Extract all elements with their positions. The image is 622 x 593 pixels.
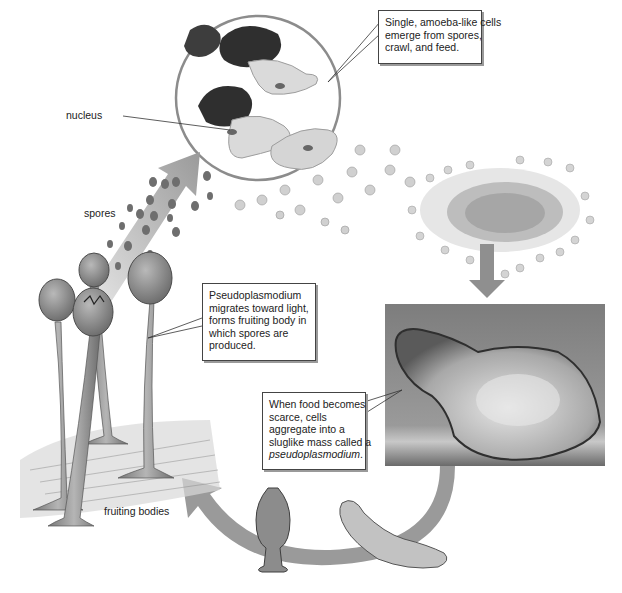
amoeba-callout-pointer bbox=[328, 22, 380, 82]
amoeba-emergence-callout: Single, amoeba-like cells emerge from sp… bbox=[378, 10, 482, 64]
callout-line: produced. bbox=[209, 339, 309, 352]
callout-line: crawl, and feed. bbox=[385, 41, 475, 54]
callout-line: When food becomes bbox=[269, 398, 359, 411]
pseudoplasmodium-photo bbox=[385, 304, 605, 466]
callout-line: which spores are bbox=[209, 327, 309, 340]
callout-line: Single, amoeba-like cells bbox=[385, 16, 475, 29]
pseudoplasmodium-term: pseudoplasmodium bbox=[269, 448, 360, 460]
callout-line: forms fruiting body in bbox=[209, 314, 309, 327]
callout-line: Pseudoplasmodium bbox=[209, 289, 309, 302]
callout-punctuation: . bbox=[360, 448, 363, 460]
aggregation-callout: When food becomes scarce, cells aggregat… bbox=[262, 392, 366, 470]
callout-line: emerge from spores, bbox=[385, 29, 475, 42]
nucleus-label: nucleus bbox=[66, 109, 102, 121]
pseudoplasmodium-migration-callout: Pseudoplasmodium migrates toward light, … bbox=[202, 283, 316, 361]
aggregation-down-arrow bbox=[469, 244, 505, 298]
fruiting-bodies-label: fruiting bodies bbox=[104, 505, 169, 517]
amoeba-magnification-circle bbox=[123, 16, 340, 180]
slime-mold-life-cycle-diagram: nucleus spores fruiting bodies Single, a… bbox=[0, 0, 622, 593]
callout-line: aggregate into a bbox=[269, 423, 359, 436]
callout-line: sluglike mass called a bbox=[269, 436, 359, 449]
spores-label: spores bbox=[84, 207, 116, 219]
fruiting-bodies bbox=[20, 252, 220, 526]
callout-line: migrates toward light, bbox=[209, 302, 309, 315]
cell-aggregation bbox=[408, 156, 594, 278]
callout-line: pseudoplasmodium. bbox=[269, 448, 359, 461]
callout-line: scarce, cells bbox=[269, 411, 359, 424]
